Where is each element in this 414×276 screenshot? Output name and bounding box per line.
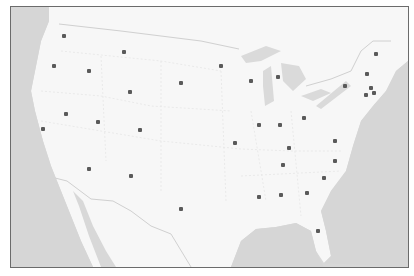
map-marker[interactable] xyxy=(364,93,368,97)
map-marker[interactable] xyxy=(233,141,237,145)
map-marker[interactable] xyxy=(257,123,261,127)
map-marker[interactable] xyxy=(281,163,285,167)
map-marker[interactable] xyxy=(87,69,91,73)
map-marker[interactable] xyxy=(52,64,56,68)
map-marker[interactable] xyxy=(62,34,66,38)
map-marker[interactable] xyxy=(369,86,373,90)
map-marker[interactable] xyxy=(129,174,133,178)
map-marker[interactable] xyxy=(302,116,306,120)
map-marker[interactable] xyxy=(322,176,326,180)
map-marker[interactable] xyxy=(343,84,347,88)
map-marker[interactable] xyxy=(316,229,320,233)
map-marker[interactable] xyxy=(257,195,261,199)
map-marker[interactable] xyxy=(96,120,100,124)
map-marker[interactable] xyxy=(278,123,282,127)
map-marker[interactable] xyxy=(219,64,223,68)
map-marker[interactable] xyxy=(333,139,337,143)
map-marker[interactable] xyxy=(305,191,309,195)
map-marker[interactable] xyxy=(41,127,45,131)
map-frame[interactable] xyxy=(10,6,409,268)
map-marker[interactable] xyxy=(372,91,376,95)
map-marker[interactable] xyxy=(64,112,68,116)
map-marker[interactable] xyxy=(122,50,126,54)
map-marker[interactable] xyxy=(365,72,369,76)
map-marker[interactable] xyxy=(276,75,280,79)
map-marker[interactable] xyxy=(179,81,183,85)
map-marker[interactable] xyxy=(87,167,91,171)
map-marker[interactable] xyxy=(249,79,253,83)
map-marker[interactable] xyxy=(333,159,337,163)
map-marker[interactable] xyxy=(287,146,291,150)
map-marker[interactable] xyxy=(128,90,132,94)
map-marker[interactable] xyxy=(179,207,183,211)
map-base xyxy=(11,7,408,267)
map-marker[interactable] xyxy=(374,52,378,56)
map-marker[interactable] xyxy=(138,128,142,132)
map-marker[interactable] xyxy=(279,193,283,197)
